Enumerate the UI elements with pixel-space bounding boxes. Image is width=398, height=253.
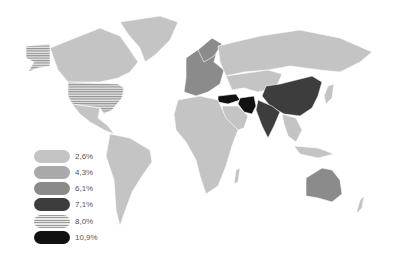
legend-swatch <box>34 150 70 163</box>
legend-item: 7,1% <box>34 197 98 213</box>
region-australia <box>306 168 342 202</box>
region-new-zealand <box>356 196 364 214</box>
legend-label: 2,6% <box>75 152 93 161</box>
legend-swatch <box>34 198 70 211</box>
region-madagascar <box>234 168 240 184</box>
legend-item: 4,3% <box>34 164 98 180</box>
legend-label: 7,1% <box>75 200 93 209</box>
region-turkey <box>218 94 240 104</box>
region-canada <box>50 28 138 82</box>
legend-item: 10,9% <box>34 229 98 245</box>
legend-swatch <box>34 182 70 195</box>
region-se-asia <box>282 114 302 142</box>
legend-item: 6,1% <box>34 181 98 197</box>
legend-swatch <box>34 166 70 179</box>
legend-label: 6,1% <box>75 184 93 193</box>
legend-label: 10,9% <box>75 233 98 242</box>
region-alaska <box>26 44 50 72</box>
region-indonesia <box>294 146 334 158</box>
region-russia <box>218 30 372 76</box>
legend-swatch <box>34 215 70 228</box>
legend-label: 8,0% <box>75 217 93 226</box>
legend: 2,6% 4,3% 6,1% 7,1% 8,0% 10,9% <box>34 148 98 246</box>
legend-label: 4,3% <box>75 168 93 177</box>
legend-item: 8,0% <box>34 213 98 229</box>
legend-item: 2,6% <box>34 148 98 164</box>
region-japan <box>324 84 334 104</box>
region-south-america <box>106 134 152 226</box>
legend-swatch <box>34 231 70 244</box>
